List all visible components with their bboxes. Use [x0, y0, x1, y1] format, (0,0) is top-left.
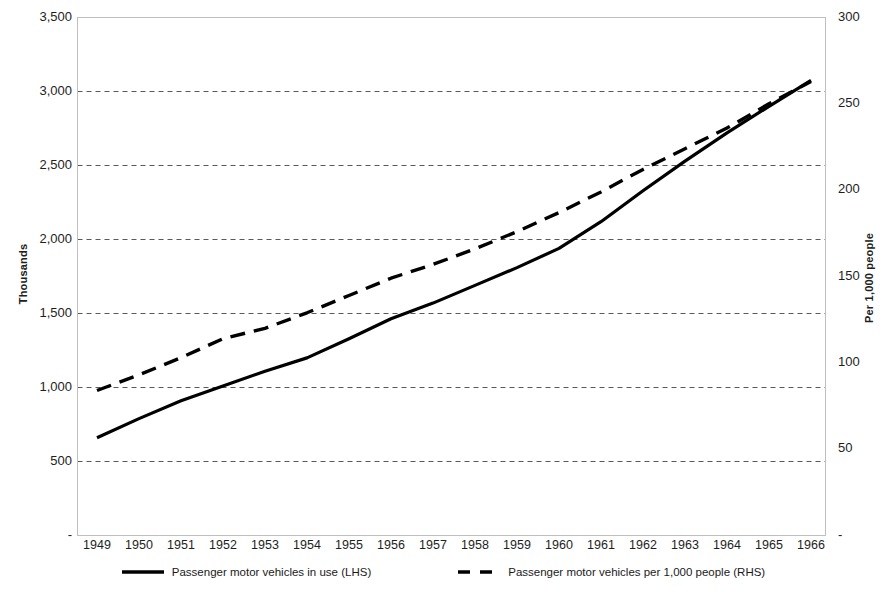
legend-label: Passenger motor vehicles per 1,000 peopl…	[508, 566, 765, 578]
plot-area	[0, 0, 886, 592]
chart-legend: Passenger motor vehicles in use (LHS)Pas…	[0, 566, 886, 578]
gridlines	[78, 18, 826, 462]
chart-container: Thousands Per 1,000 people -5001,0001,50…	[0, 0, 886, 592]
legend-label: Passenger motor vehicles in use (LHS)	[172, 566, 371, 578]
legend-solid-line-icon	[121, 567, 165, 577]
legend-item-2[interactable]: Passenger motor vehicles per 1,000 peopl…	[457, 566, 765, 578]
legend-dashed-line-icon	[457, 567, 501, 577]
series-line-2	[97, 81, 811, 390]
series-line-1	[97, 80, 811, 437]
plot-frame	[78, 18, 826, 536]
legend-item-1[interactable]: Passenger motor vehicles in use (LHS)	[121, 566, 371, 578]
series-layer	[97, 80, 811, 437]
